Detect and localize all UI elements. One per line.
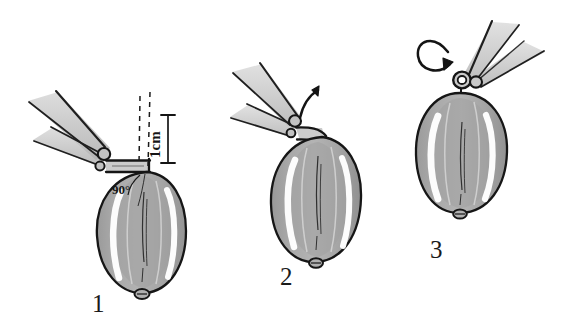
- rotate-axial-arrow-3: [418, 41, 453, 70]
- panel-number-1: 1: [92, 290, 105, 317]
- hemostat-handles-2: [230, 63, 300, 137]
- panel-number-2: 2: [280, 263, 293, 290]
- organ-body-3: [416, 93, 507, 219]
- surgical-illustration-figure: 90° 1cm 1: [0, 0, 565, 322]
- panel-3: 3: [416, 21, 545, 263]
- panel-number-3: 3: [430, 236, 443, 263]
- panel-1: 90° 1cm 1: [28, 91, 186, 317]
- organ-body-2: [271, 137, 361, 268]
- measurement-label: 1cm: [147, 131, 163, 158]
- panel-2: 2: [230, 63, 361, 290]
- measurement-bracket-1: [161, 115, 175, 163]
- angle-label: 90°: [112, 182, 130, 197]
- illustration-canvas: 90° 1cm 1: [0, 0, 565, 322]
- rotate-up-arrow-2: [300, 86, 319, 118]
